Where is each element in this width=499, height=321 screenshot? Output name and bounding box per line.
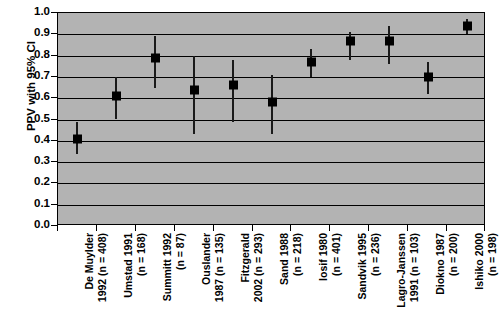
- gridline: [58, 141, 484, 142]
- gridline: [58, 162, 484, 163]
- y-axis-tickmark: [51, 140, 57, 141]
- x-axis-tickmark: [174, 225, 175, 231]
- data-marker: [229, 81, 238, 90]
- x-axis-tickmark: [252, 225, 253, 231]
- x-axis-tickmark: [96, 225, 97, 231]
- data-marker: [385, 36, 394, 45]
- gridline: [58, 205, 484, 206]
- data-marker: [190, 85, 199, 94]
- y-axis-tickmark: [51, 161, 57, 162]
- x-axis-tickmark: [329, 225, 330, 231]
- x-axis-ticklabel: Umstad 1991 (n = 168): [122, 233, 148, 321]
- y-axis-ticklabel: 0.1: [10, 198, 50, 210]
- data-marker: [112, 92, 121, 101]
- x-axis-tickmark: [484, 225, 485, 231]
- error-bar: [193, 56, 195, 135]
- y-axis-ticklabel: 0.0: [10, 219, 50, 231]
- x-axis-tickmark: [407, 225, 408, 231]
- y-axis-ticklabel: 1.0: [10, 6, 50, 18]
- y-axis-ticklabel: 0.8: [10, 49, 50, 61]
- data-marker: [346, 36, 355, 45]
- y-axis-tickmark: [51, 55, 57, 56]
- y-axis-tickmark: [51, 12, 57, 13]
- x-axis-ticklabel: Ishiko 2000 (n = 198): [473, 233, 499, 321]
- x-axis-tickmark: [290, 225, 291, 231]
- data-marker: [307, 57, 316, 66]
- x-axis-tickmark: [57, 225, 58, 231]
- x-axis-ticklabel: Sandvik 1995 (n = 236): [356, 233, 382, 321]
- data-marker: [151, 53, 160, 62]
- y-axis-ticklabel: 0.4: [10, 134, 50, 146]
- y-axis-ticklabel: 0.7: [10, 70, 50, 82]
- x-axis-tickmarks: [57, 225, 485, 232]
- x-axis-tickmark: [135, 225, 136, 231]
- y-axis-tickmark: [51, 76, 57, 77]
- y-axis-ticklabel: 0.3: [10, 155, 50, 167]
- y-axis-tickmark: [51, 182, 57, 183]
- x-axis-ticklabel: Summitt 1992 (n = 87): [161, 233, 187, 321]
- data-marker: [463, 21, 472, 30]
- y-axis-ticklabel: 0.6: [10, 91, 50, 103]
- y-axis-tickmark: [51, 225, 57, 226]
- x-axis-tickmark: [368, 225, 369, 231]
- x-axis-ticklabel: Fitzgerald 2002 (n = 293): [239, 233, 265, 321]
- data-marker: [73, 134, 82, 143]
- x-axis-ticklabel: Diokno 1987 (n = 200): [434, 233, 460, 321]
- y-axis-tickmark: [51, 204, 57, 205]
- x-axis-tickmark: [446, 225, 447, 231]
- y-axis-tickmark: [51, 33, 57, 34]
- y-axis-ticklabel: 0.2: [10, 177, 50, 189]
- x-axis-ticklabel: De Muylder 1992 (n = 408): [83, 233, 109, 321]
- x-axis-tickmark: [213, 225, 214, 231]
- x-axis-ticklabel: Ouslander 1987 (n = 135): [200, 233, 226, 321]
- plot-area: [57, 12, 485, 225]
- error-bar: [232, 60, 234, 122]
- data-marker: [268, 98, 277, 107]
- x-axis-ticklabel: Sand 1988 (n = 218): [278, 233, 304, 321]
- y-axis-tickmark: [51, 97, 57, 98]
- y-axis-ticklabels: 1.00.90.80.70.60.50.40.30.20.10.0: [10, 12, 50, 225]
- y-axis-ticklabel: 0.9: [10, 28, 50, 40]
- gridline: [58, 56, 484, 57]
- y-axis-tickmark: [51, 119, 57, 120]
- x-axis-ticklabels: De Muylder 1992 (n = 408)Umstad 1991 (n …: [57, 233, 485, 321]
- gridline: [58, 34, 484, 35]
- gridline: [58, 183, 484, 184]
- data-marker: [424, 72, 433, 81]
- y-axis-ticklabel: 0.5: [10, 113, 50, 125]
- x-axis-ticklabel: Iosif 1980 (n = 401): [317, 233, 343, 321]
- x-axis-ticklabel: Lagro-Janssen 1991 (n = 103): [395, 233, 421, 321]
